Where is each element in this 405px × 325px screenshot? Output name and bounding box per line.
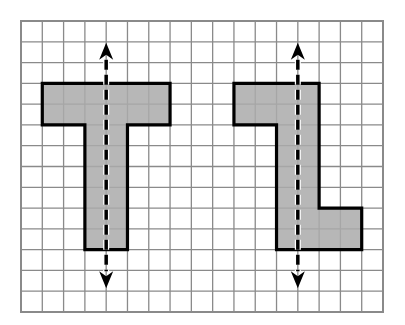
grid	[21, 21, 383, 312]
symmetry-diagram	[0, 0, 405, 325]
